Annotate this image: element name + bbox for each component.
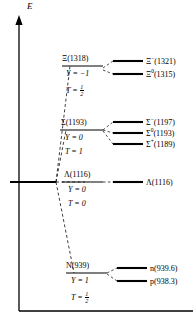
state-label-sigma-plus: Σ+(1189) xyxy=(146,139,175,149)
state-mass-sigma-zero: (1193) xyxy=(153,129,174,138)
energy-axis-label: E xyxy=(27,2,33,11)
isospin-prefix-xi: T = xyxy=(66,86,80,95)
hypercharge-label-sigma: Y = 0 xyxy=(65,134,83,142)
isospin-label-xi: T = 12 xyxy=(66,84,84,98)
state-label-sigma-minus: Σ−(1197) xyxy=(146,117,175,127)
hypercharge-label-lambda: Y = 0 xyxy=(68,186,86,194)
state-level-lines xyxy=(113,61,147,281)
state-mass-sigma-plus: (1189) xyxy=(154,140,175,149)
state-label-xi-minus: Ξ−(1321) xyxy=(146,56,176,66)
isospin-prefix-lambda: T = xyxy=(68,199,82,208)
state-label-xi-zero: Ξ0(1315) xyxy=(146,69,175,79)
isospin-numerator-xi: 1 xyxy=(80,84,84,91)
isospin-denominator-xi: 2 xyxy=(80,91,84,97)
isospin-numerator-nucleon: 1 xyxy=(85,291,89,298)
state-mass-neutron: (939.6) xyxy=(154,264,177,273)
baryon-energy-level-diagram: E Ξ(1318) Y = −1 T = 12 Ξ−(1321) Ξ0(1315… xyxy=(0,0,195,324)
multiplet-label-sigma: Σ(1193) xyxy=(61,119,87,127)
state-mass-sigma-minus: (1197) xyxy=(154,118,175,127)
state-label-sigma-zero: Σ0(1193) xyxy=(146,128,174,138)
isospin-prefix-sigma: T = xyxy=(65,147,79,156)
splitting-lines xyxy=(103,61,117,281)
hypercharge-label-xi: Y = −1 xyxy=(66,70,89,78)
isospin-fraction-nucleon: 12 xyxy=(85,291,89,305)
state-label-proton: p(938.3) xyxy=(150,276,177,286)
isospin-label-sigma: T = 1 xyxy=(65,148,83,156)
state-mass-xi-minus: (1321) xyxy=(154,57,175,66)
multiplet-label-nucleon: N(939) xyxy=(66,262,89,270)
state-label-lambda: Λ(1116) xyxy=(146,177,173,187)
isospin-label-lambda: T = 0 xyxy=(68,200,86,208)
multiplet-label-lambda: Λ(1116) xyxy=(64,171,91,179)
hypercharge-label-nucleon: Y = 1 xyxy=(71,277,89,285)
multiplet-label-xi: Ξ(1318) xyxy=(62,55,88,63)
branch-to-nucleon xyxy=(56,182,74,273)
state-mass-proton: (938.3) xyxy=(154,277,177,286)
isospin-value-sigma: 1 xyxy=(79,147,83,156)
state-label-neutron: n(939.6) xyxy=(150,263,177,273)
state-mass-xi-zero: (1315) xyxy=(154,70,175,79)
state-mass-lambda: (1116) xyxy=(152,178,173,187)
isospin-fraction-xi: 12 xyxy=(80,84,84,98)
isospin-denominator-nucleon: 2 xyxy=(85,298,89,304)
isospin-label-nucleon: T = 12 xyxy=(71,291,89,305)
isospin-prefix-nucleon: T = xyxy=(71,293,85,302)
isospin-value-lambda: 0 xyxy=(82,199,86,208)
